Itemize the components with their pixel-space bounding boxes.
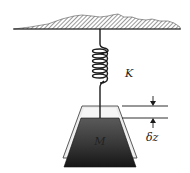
spring-top-rod <box>100 29 104 48</box>
spring-mass-diagram: M K δz <box>0 0 190 173</box>
fixed-support <box>13 14 181 29</box>
arrow-down-icon <box>150 101 156 106</box>
spring-constant-label: K <box>124 67 134 80</box>
support-hatch <box>14 14 180 29</box>
arrow-up-icon <box>150 118 156 123</box>
spring <box>93 29 109 118</box>
mass-block: M <box>64 106 136 167</box>
spring-coil <box>93 48 109 83</box>
displacement-label: δz <box>146 131 159 144</box>
displacement-dimension <box>122 96 168 128</box>
mass-label: M <box>93 135 106 148</box>
